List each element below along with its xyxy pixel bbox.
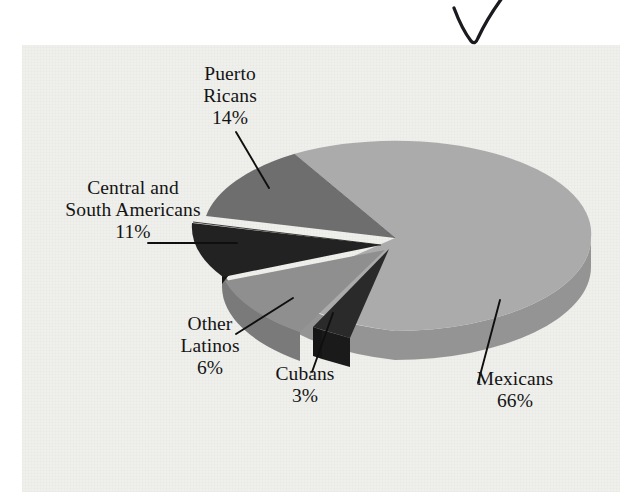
pie-label-central-south-americans: Central and South Americans 11% bbox=[18, 177, 248, 242]
pie-label-central-south-line1: Central and bbox=[18, 177, 248, 199]
pie-label-puerto-ricans-line1: Puerto bbox=[150, 63, 310, 85]
pie-label-cubans-value: 3% bbox=[245, 385, 365, 407]
pie-label-cubans: Cubans 3% bbox=[245, 363, 365, 407]
pie-label-puerto-ricans-line2: Ricans bbox=[150, 85, 310, 107]
pie-label-central-south-value: 11% bbox=[18, 221, 248, 243]
pie-chart bbox=[0, 0, 640, 503]
pie-label-other-latinos-line1: Other bbox=[150, 313, 270, 335]
pie-label-puerto-ricans: Puerto Ricans 14% bbox=[150, 63, 310, 128]
pie-label-puerto-ricans-value: 14% bbox=[150, 107, 310, 129]
pie-label-mexicans: Mexicans 66% bbox=[440, 368, 590, 412]
pie-label-mexicans-line1: Mexicans bbox=[440, 368, 590, 390]
page-canvas: Puerto Ricans 14% Central and South Amer… bbox=[0, 0, 640, 503]
pie-label-mexicans-value: 66% bbox=[440, 390, 590, 412]
pie-label-central-south-line2: South Americans bbox=[18, 199, 248, 221]
pie-label-cubans-line1: Cubans bbox=[245, 363, 365, 385]
pie-label-other-latinos-line2: Latinos bbox=[150, 335, 270, 357]
